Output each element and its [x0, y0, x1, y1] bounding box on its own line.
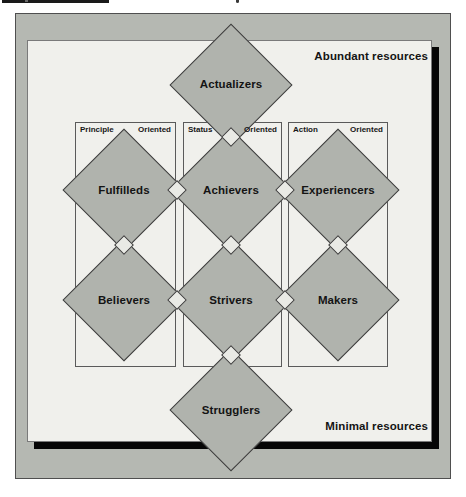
- minimal-resources-label: Minimal resources: [325, 420, 428, 432]
- segment-label: Makers: [318, 294, 358, 306]
- segment-label: Actualizers: [200, 78, 262, 90]
- segment-label: Achievers: [203, 184, 259, 196]
- segment-label: Experiencers: [301, 184, 374, 196]
- crop-artifact-speck: [25, 0, 28, 2]
- segment-label: Strivers: [209, 294, 253, 306]
- crop-artifact-bar: [2, 0, 109, 3]
- segment-label: Believers: [98, 294, 150, 306]
- abundant-resources-label: Abundant resources: [314, 50, 428, 62]
- vals-framework-diagram: Abundant resources Minimal resources Pri…: [0, 0, 466, 497]
- segment-label: Strugglers: [202, 404, 261, 416]
- crop-artifact-speck: [236, 0, 239, 3]
- segment-label: Fulfilleds: [98, 184, 149, 196]
